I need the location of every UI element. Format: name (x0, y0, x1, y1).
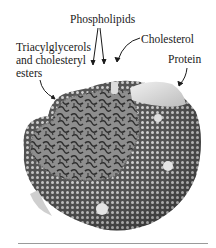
label-triacylglycerols-line2: and cholesteryl (16, 54, 91, 67)
label-triacylglycerols: Triacylglycerols and cholesteryl esters (16, 41, 91, 80)
divider-rule (18, 243, 208, 244)
protein-small-2 (163, 161, 173, 171)
arrow-phospholipids-left (93, 28, 98, 64)
arrow-protein (180, 68, 187, 84)
arrow-phospholipids-right (100, 28, 104, 63)
label-phospholipids: Phospholipids (70, 13, 135, 26)
arrow-cholesterol (118, 38, 140, 60)
arrow-triacylglycerols (40, 80, 54, 98)
label-triacylglycerols-line1: Triacylglycerols (16, 41, 91, 54)
cholesterol-marker (111, 82, 118, 94)
label-cholesterol: Cholesterol (141, 33, 194, 46)
protein-small-3 (154, 114, 162, 122)
protein-small-1 (96, 203, 108, 215)
label-triacylglycerols-line3: esters (16, 67, 91, 80)
label-protein: Protein (168, 53, 201, 66)
